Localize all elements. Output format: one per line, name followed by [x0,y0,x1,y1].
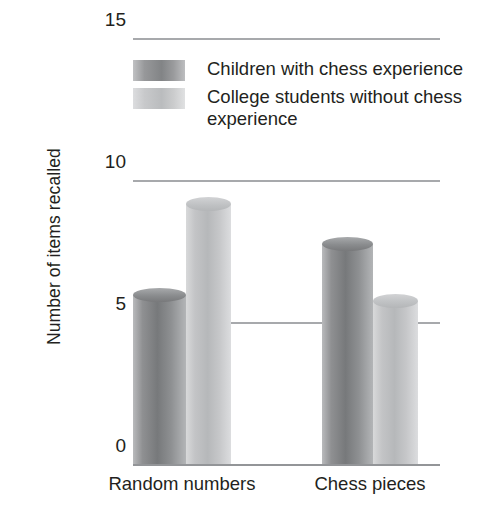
bar-cap [373,294,418,308]
bar-body [322,244,373,464]
legend: Children with chess experience College s… [133,58,473,134]
bar-random-numbers-college[interactable] [186,197,231,464]
x-axis-label-chess-pieces: Chess pieces [292,473,448,495]
y-tick-label-10: 10 [80,152,126,171]
bar-chart: Number of items recalled 15 10 5 0 [0,0,484,513]
x-axis-label-random-numbers: Random numbers [104,473,260,495]
legend-item-children[interactable]: Children with chess experience [133,58,473,81]
bar-random-numbers-children[interactable] [133,288,186,464]
y-tick-label-0: 0 [80,436,126,455]
axis-baseline-0 [133,464,440,466]
legend-label-college: College students without chess experienc… [207,86,469,129]
bar-cap [133,288,186,302]
bar-chess-pieces-college[interactable] [373,294,418,464]
bar-cap [322,237,373,251]
legend-swatch-icon-college [133,88,185,109]
legend-swatch-icon-children [133,60,185,81]
gridline-15 [133,38,440,40]
legend-label-children: Children with chess experience [207,58,463,80]
y-axis-title: Number of items recalled [44,97,65,397]
bar-body [373,301,418,464]
bar-body [186,204,231,464]
y-tick-label-15: 15 [80,10,126,29]
bar-cap [186,197,231,211]
y-tick-label-5: 5 [80,294,126,313]
bar-chess-pieces-children[interactable] [322,237,373,464]
gridline-10 [133,180,440,182]
legend-item-college[interactable]: College students without chess experienc… [133,86,473,129]
bar-body [133,295,186,464]
